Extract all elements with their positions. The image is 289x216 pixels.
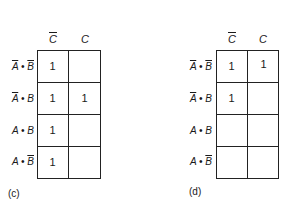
cell-c-r2-c0: 1 (37, 114, 68, 146)
cell-d-r0-c1: 1 (248, 48, 279, 80)
cell-c-r2-c1 (69, 114, 100, 146)
row-header-abar-bbar: A • B (0, 61, 34, 72)
cell-d-r0-c0: 1 (216, 50, 247, 82)
karnaugh-map-d: C C A • B A • B A • B A • B 1 1 1 (d) (145, 0, 289, 216)
cell-c-r1-c0: 1 (37, 82, 68, 114)
row-header-a-b: A • B (178, 125, 212, 136)
row-header-abar-bbar: A • B (178, 61, 212, 72)
karnaugh-map-c: C C A • B A • B A • B A • B 1 1 1 1 1 (c… (0, 0, 145, 216)
cell-c-r3-c1 (69, 146, 100, 178)
col-header-c-bar: C (38, 33, 68, 45)
col-header-c: C (70, 33, 100, 45)
caption-c: (c) (8, 188, 20, 199)
cell-d-r1-c1 (248, 82, 279, 114)
cell-d-r2-c1 (248, 114, 279, 146)
col-header-c: C (248, 33, 278, 45)
row-header-a-b: A • B (0, 125, 34, 136)
row-header-a-bbar: A • B (178, 156, 212, 167)
row-header-a-bbar: A • B (0, 156, 34, 167)
row-header-abar-b: A • B (178, 93, 212, 104)
cell-c-r0-c1 (69, 50, 100, 82)
col-header-c-bar: C (217, 33, 247, 45)
cell-d-r3-c1 (248, 146, 279, 178)
cell-d-r1-c0: 1 (216, 82, 247, 114)
cell-c-r0-c0: 1 (37, 50, 68, 82)
caption-d: (d) (189, 186, 201, 197)
cell-d-r3-c0 (216, 146, 247, 178)
cell-c-r1-c1: 1 (69, 82, 100, 114)
cell-d-r2-c0 (216, 114, 247, 146)
cell-c-r3-c0: 1 (37, 146, 68, 178)
row-header-abar-b: A • B (0, 93, 34, 104)
